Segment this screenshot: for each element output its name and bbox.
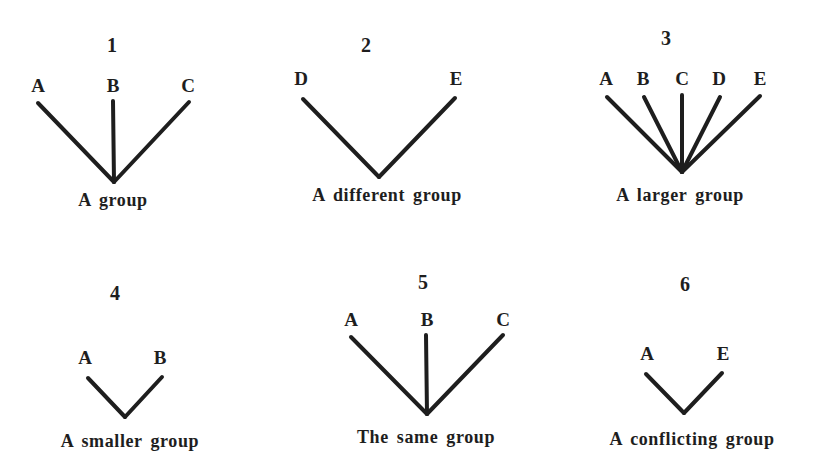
diagram-caption: A conflicting group <box>609 429 774 449</box>
node-label: B <box>637 68 650 89</box>
node-label: A <box>599 68 613 89</box>
diagram-6: 6 A E A conflicting group <box>609 273 774 449</box>
node-label: B <box>107 75 120 96</box>
member-edge <box>607 97 682 172</box>
member-edge <box>351 337 427 414</box>
member-edge <box>38 103 114 182</box>
node-label: C <box>675 68 689 89</box>
member-edge <box>684 373 722 413</box>
diagram-1: 1 A B C A group <box>31 34 195 210</box>
node-label: E <box>754 68 767 89</box>
diagram-number: 2 <box>361 34 371 56</box>
member-edge <box>427 335 503 414</box>
member-edge <box>682 97 720 172</box>
node-label: A <box>78 347 92 368</box>
group-diagrams-figure: 1 A B C A group 2 D E A different group … <box>0 0 820 469</box>
member-edge <box>113 101 114 182</box>
diagram-number: 5 <box>418 271 428 293</box>
member-edge <box>682 96 760 172</box>
diagram-caption: A different group <box>312 185 462 205</box>
node-label: A <box>640 343 654 364</box>
member-edge <box>88 378 125 417</box>
member-edge <box>426 335 427 414</box>
diagram-number: 6 <box>680 273 690 295</box>
member-edge <box>646 374 684 413</box>
diagram-number: 1 <box>107 34 117 56</box>
diagram-caption: A smaller group <box>61 431 199 451</box>
diagram-3: 3 A B C D E A larger group <box>599 27 766 205</box>
member-edge <box>125 377 162 417</box>
diagram-caption: A larger group <box>616 185 744 205</box>
diagram-canvas: 1 A B C A group 2 D E A different group … <box>0 0 820 469</box>
diagram-4: 4 A B A smaller group <box>61 282 199 451</box>
member-edge <box>114 102 189 182</box>
node-label: A <box>344 309 358 330</box>
node-label: C <box>496 309 510 330</box>
node-label: D <box>712 68 726 89</box>
diagram-2: 2 D E A different group <box>294 34 462 205</box>
diagram-caption: The same group <box>357 427 495 447</box>
node-label: B <box>154 347 167 368</box>
member-edge <box>379 98 455 177</box>
member-edge <box>644 97 682 172</box>
node-label: B <box>421 309 434 330</box>
node-label: E <box>717 343 730 364</box>
node-label: C <box>181 75 195 96</box>
diagram-caption: A group <box>78 190 147 210</box>
diagram-number: 3 <box>661 27 671 49</box>
diagram-number: 4 <box>110 282 120 304</box>
node-label: E <box>450 68 463 89</box>
node-label: A <box>31 75 45 96</box>
node-label: D <box>294 68 308 89</box>
diagram-5: 5 A B C The same group <box>344 271 510 447</box>
member-edge <box>303 99 379 177</box>
